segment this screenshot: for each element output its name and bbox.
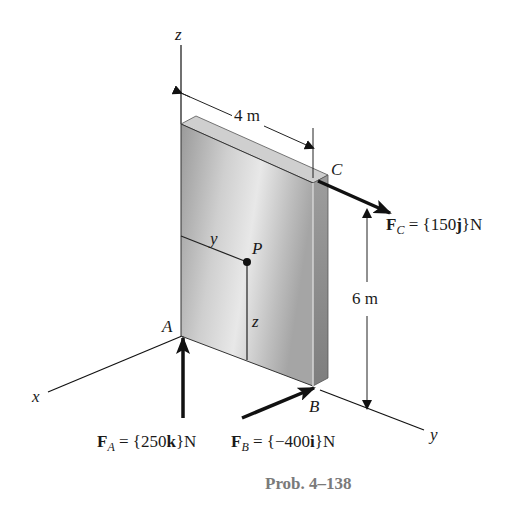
point-label-a: A [162, 318, 172, 335]
axis-label-y: y [430, 426, 438, 443]
coord-label-z: z [252, 313, 259, 330]
point-label-p: P [252, 240, 262, 257]
plate-side-face [313, 175, 328, 386]
coord-label-y: y [210, 230, 218, 247]
point-label-c: C [331, 161, 342, 178]
x-axis [48, 336, 182, 392]
dimension-width-label: 4 m [232, 107, 262, 124]
force-fb-arrow [242, 388, 314, 418]
point-p [243, 258, 251, 266]
point-label-b: B [309, 398, 319, 415]
force-label-fb: FB = {−400i}N [231, 433, 335, 450]
dimension-height-label: 6 m [352, 290, 378, 307]
axis-label-z: z [175, 26, 182, 43]
y-axis [320, 390, 424, 430]
force-label-fc: FC = {150j}N [386, 216, 482, 233]
force-label-fa: FA = {250k}N [97, 433, 196, 450]
axis-label-x: x [32, 388, 40, 405]
figure-caption: Prob. 4–138 [265, 474, 352, 494]
force-fc-arrow [318, 181, 390, 213]
